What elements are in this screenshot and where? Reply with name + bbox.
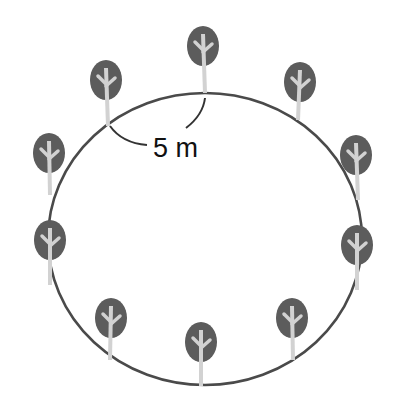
tree-trunk [110, 306, 111, 360]
tree-1 [187, 26, 219, 93]
tree-trunk [203, 34, 205, 93]
tree-trunk [356, 143, 358, 200]
tree-trunk [106, 68, 108, 126]
spacing-arc-right [186, 98, 205, 128]
tree-5 [276, 298, 308, 360]
tree-7 [95, 298, 127, 360]
tree-10 [90, 60, 122, 126]
tree-trunk [49, 141, 50, 195]
spacing-arc-left [110, 126, 147, 145]
tree-3 [340, 135, 372, 200]
tree-2 [284, 62, 316, 120]
tree-circle-diagram: 5 m [0, 0, 404, 414]
tree-6 [185, 322, 217, 386]
tree-8 [34, 220, 66, 285]
tree-trunk [292, 306, 293, 360]
tree-trunk [298, 70, 300, 120]
tree-4 [341, 225, 373, 290]
spacing-label: 5 m [153, 133, 198, 163]
